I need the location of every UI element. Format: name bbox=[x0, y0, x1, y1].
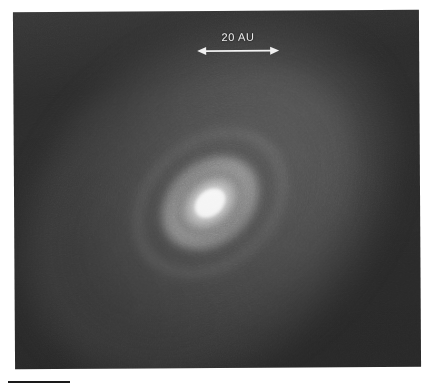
scale-bar: 20 AU bbox=[195, 31, 281, 60]
scale-bar-double-arrow-icon bbox=[197, 45, 279, 58]
image-panel: 20 AU bbox=[13, 10, 421, 369]
figure-container: 20 AU bbox=[0, 0, 430, 391]
caption-rule bbox=[8, 381, 70, 383]
scale-bar-label: 20 AU bbox=[195, 31, 281, 44]
